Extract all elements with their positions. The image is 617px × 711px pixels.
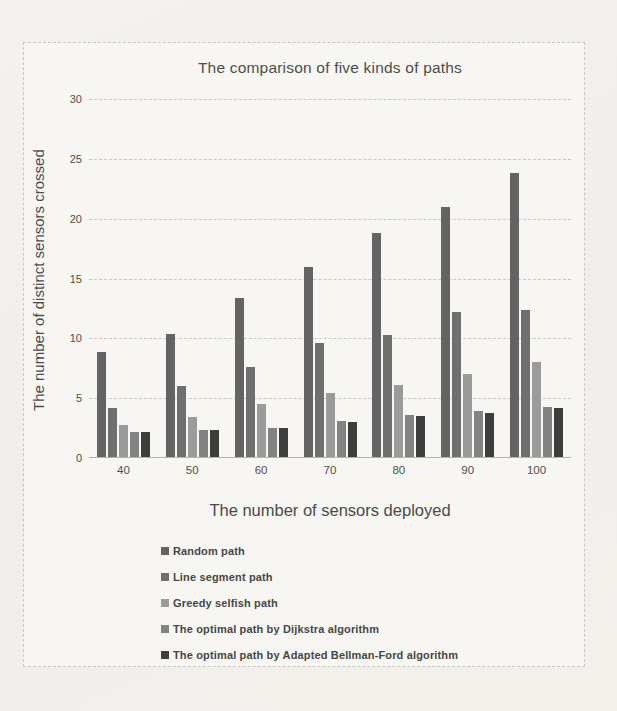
- bar: [210, 430, 219, 458]
- bar: [337, 421, 346, 458]
- legend-item: Random path: [161, 538, 561, 564]
- y-tick-label: 15: [48, 273, 82, 285]
- bar: [268, 428, 277, 458]
- x-tick-label: 70: [296, 464, 365, 476]
- x-axis-label: The number of sensors deployed: [89, 501, 571, 520]
- bar: [383, 335, 392, 458]
- gridline: [89, 338, 571, 339]
- bar: [235, 298, 244, 458]
- y-tick-label: 0: [48, 452, 82, 464]
- plot-area: [89, 99, 571, 458]
- legend-label: Line segment path: [173, 571, 273, 583]
- y-tick-label: 20: [48, 213, 82, 225]
- y-tick-label: 5: [48, 392, 82, 404]
- x-tick-label: 100: [502, 464, 571, 476]
- bar: [554, 408, 563, 458]
- bar: [441, 207, 450, 458]
- bar: [372, 233, 381, 458]
- bar: [405, 415, 414, 458]
- y-tick-label: 30: [48, 93, 82, 105]
- x-axis-line: [89, 457, 571, 458]
- bar: [108, 408, 117, 458]
- x-tick-label: 90: [433, 464, 502, 476]
- bar: [177, 386, 186, 458]
- bar: [521, 310, 530, 458]
- bar: [485, 413, 494, 458]
- bar: [326, 393, 335, 458]
- y-tick-label: 25: [48, 153, 82, 165]
- scanned-page: The comparison of five kinds of paths Th…: [0, 0, 617, 711]
- y-tick-label: 10: [48, 332, 82, 344]
- legend: Random pathLine segment pathGreedy selfi…: [161, 538, 561, 668]
- bar: [119, 425, 128, 459]
- bar: [452, 312, 461, 458]
- gridline: [89, 219, 571, 220]
- bar: [188, 417, 197, 458]
- bar: [246, 367, 255, 458]
- bar: [532, 362, 541, 458]
- x-tick-label: 50: [158, 464, 227, 476]
- bar: [315, 343, 324, 458]
- legend-item: The optimal path by Dijkstra algorithm: [161, 616, 561, 642]
- x-tick-label: 40: [89, 464, 158, 476]
- legend-marker: [161, 625, 169, 633]
- legend-label: The optimal path by Dijkstra algorithm: [173, 623, 379, 635]
- bar: [416, 416, 425, 458]
- legend-label: Greedy selfish path: [173, 597, 278, 609]
- chart-title: The comparison of five kinds of paths: [89, 59, 571, 85]
- bar: [394, 385, 403, 458]
- legend-item: The optimal path by Adapted Bellman-Ford…: [161, 642, 561, 668]
- bar: [510, 173, 519, 458]
- chart-frame: The comparison of five kinds of paths Th…: [23, 42, 585, 667]
- bar: [348, 422, 357, 458]
- bar: [199, 430, 208, 458]
- bar: [130, 432, 139, 458]
- gridline: [89, 279, 571, 280]
- bar: [543, 407, 552, 458]
- x-tick-label: 60: [227, 464, 296, 476]
- gridline: [89, 99, 571, 100]
- legend-label: Random path: [173, 545, 245, 557]
- bar: [463, 374, 472, 458]
- bar: [279, 428, 288, 458]
- legend-marker: [161, 651, 169, 659]
- bar: [166, 334, 175, 458]
- gridline: [89, 159, 571, 160]
- bar: [304, 267, 313, 458]
- bar: [97, 352, 106, 459]
- legend-item: Line segment path: [161, 564, 561, 590]
- legend-marker: [161, 547, 169, 555]
- legend-marker: [161, 599, 169, 607]
- bar: [257, 404, 266, 458]
- bar: [141, 432, 150, 458]
- bar: [474, 411, 483, 458]
- x-tick-label: 80: [364, 464, 433, 476]
- legend-marker: [161, 573, 169, 581]
- legend-label: The optimal path by Adapted Bellman-Ford…: [173, 649, 458, 661]
- legend-item: Greedy selfish path: [161, 590, 561, 616]
